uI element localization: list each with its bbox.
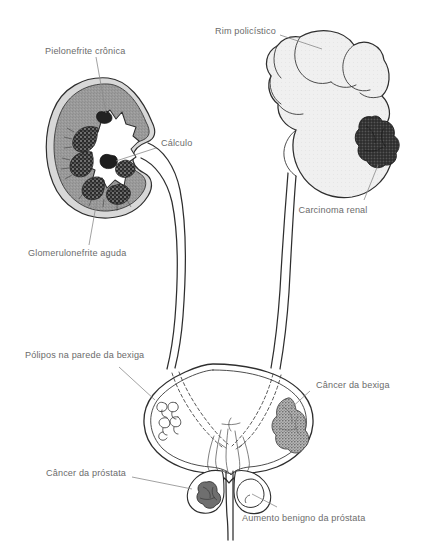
benign-prostate-nodule — [237, 479, 264, 507]
renal-calculus — [100, 154, 117, 168]
left-ureter-outer — [148, 143, 185, 368]
label-rim-policistico: Rim policístico — [215, 26, 276, 36]
label-glomerulonefrite-aguda: Glomerulonefrite aguda — [28, 248, 127, 258]
polycystic-kidney-body — [266, 31, 393, 198]
leader-cancer-prostata — [132, 477, 192, 489]
urinary-tract-figure: Pielonefrite crônica Cálculo Glomerulone… — [0, 0, 426, 550]
figure-canvas: Pielonefrite crônica Cálculo Glomerulone… — [0, 0, 426, 550]
label-cancer-prostata: Câncer da próstata — [46, 468, 127, 478]
leader-polipos — [119, 367, 155, 400]
label-calculo: Cálculo — [161, 138, 192, 148]
right-ureter-inner — [280, 176, 296, 369]
right-kidney-group — [266, 31, 393, 198]
label-polipos-parede-bexiga: Pólipos na parede da bexiga — [25, 350, 145, 360]
right-ureter-outer — [271, 173, 288, 368]
label-aumento-benigno-prostata: Aumento benigno da próstata — [242, 513, 366, 523]
label-carcinoma-renal: Carcinoma renal — [299, 205, 368, 215]
ureters-group — [141, 143, 296, 369]
left-kidney-group — [46, 78, 154, 218]
label-pielonefrite-cronica: Pielonefrite crônica — [45, 46, 126, 56]
label-cancer-bexiga: Câncer da bexiga — [316, 380, 390, 390]
